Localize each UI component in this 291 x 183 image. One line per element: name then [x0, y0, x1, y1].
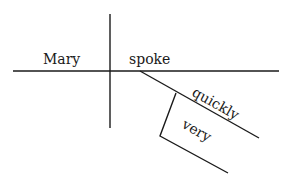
sentence-diagram: Mary spoke quickly very: [0, 0, 291, 183]
verb-word: spoke: [129, 51, 170, 67]
subject-word: Mary: [43, 51, 80, 67]
very-word: very: [179, 115, 215, 145]
